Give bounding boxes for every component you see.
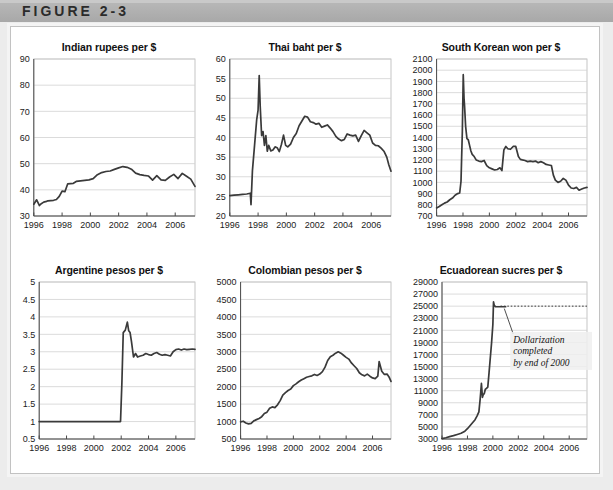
y-tick-label: 1500 xyxy=(413,121,433,131)
y-tick-label: 25 xyxy=(216,192,226,202)
plot-area xyxy=(39,282,195,439)
y-tick-label: 35 xyxy=(216,152,226,162)
y-tick-label: 2000 xyxy=(413,65,433,75)
y-tick-label: 55 xyxy=(216,74,226,84)
chart-cell-colombian-pesos: Colombian pesos per $5001000150020002500… xyxy=(207,250,403,473)
y-tick-label: 40 xyxy=(216,133,226,143)
x-tick-label: 2006 xyxy=(363,443,383,453)
chart-cell-ecuadorean-sucres: Ecuadorean sucres per $30005000700090001… xyxy=(403,250,599,473)
x-tick-label: 1996 xyxy=(427,220,447,230)
y-tick-label: 1200 xyxy=(413,155,433,165)
chart-svg-indian-rupees: 30405060708090199619982000200220042006 xyxy=(11,27,207,250)
y-tick-label: 2.5 xyxy=(23,364,36,374)
y-tick-label: 60 xyxy=(20,133,30,143)
x-tick-label: 2006 xyxy=(559,443,579,453)
y-tick-label: 800 xyxy=(418,200,433,210)
chart-svg-south-korean-won: 7008009001000110012001300140015001600170… xyxy=(403,27,599,250)
y-tick-label: 27000 xyxy=(413,289,438,299)
x-tick-label: 2004 xyxy=(137,220,157,230)
y-tick-label: 3.5 xyxy=(23,330,36,340)
annotation-line: by end of 2000 xyxy=(513,358,569,368)
y-tick-label: 40 xyxy=(20,185,30,195)
y-tick-label: 1500 xyxy=(217,399,237,409)
y-tick-label: 11000 xyxy=(414,386,438,396)
y-tick-label: 4.5 xyxy=(23,295,36,305)
chart-title-argentine-pesos: Argentine pesos per $ xyxy=(11,264,207,276)
x-tick-label: 2000 xyxy=(479,220,499,230)
x-tick-label: 1996 xyxy=(432,443,452,453)
figure-label: FIGURE 2-3 xyxy=(22,3,129,19)
x-tick-label: 1998 xyxy=(248,220,268,230)
y-tick-label: 50 xyxy=(216,93,226,103)
x-tick-label: 1996 xyxy=(231,443,251,453)
y-tick-label: 1600 xyxy=(413,110,433,120)
y-tick-label: 1000 xyxy=(413,178,433,188)
x-tick-label: 1998 xyxy=(57,443,77,453)
x-tick-label: 1996 xyxy=(29,443,49,453)
x-tick-label: 2004 xyxy=(139,443,159,453)
y-tick-label: 9000 xyxy=(418,398,438,408)
x-tick-label: 1998 xyxy=(457,443,477,453)
y-tick-label: 2000 xyxy=(217,382,237,392)
x-tick-label: 2004 xyxy=(534,443,554,453)
y-tick-label: 45 xyxy=(216,113,226,123)
x-tick-label: 2004 xyxy=(532,220,552,230)
y-tick-label: 80 xyxy=(20,80,30,90)
y-tick-label: 13000 xyxy=(413,374,438,384)
x-tick-label: 2006 xyxy=(166,443,186,453)
chart-title-south-korean-won: South Korean won per $ xyxy=(403,41,599,53)
chart-cell-indian-rupees: Indian rupees per $304050607080901996199… xyxy=(11,27,207,250)
x-tick-label: 2006 xyxy=(361,220,381,230)
annotation-line: Dollarization xyxy=(512,335,564,345)
x-tick-label: 2000 xyxy=(80,220,100,230)
annotation-line: completed xyxy=(513,346,552,356)
chart-title-colombian-pesos: Colombian pesos per $ xyxy=(207,264,403,276)
chart-cell-argentine-pesos: Argentine pesos per $0.511.522.533.544.5… xyxy=(11,250,207,473)
figure-panel: Indian rupees per $304050607080901996199… xyxy=(10,26,600,474)
chart-cell-south-korean-won: South Korean won per $700800900100011001… xyxy=(403,27,599,250)
y-tick-label: 2 xyxy=(30,382,35,392)
chart-svg-thai-baht: 2025303540455055601996199820002002200420… xyxy=(207,27,403,250)
y-tick-label: 5000 xyxy=(217,277,237,287)
y-tick-label: 1.5 xyxy=(23,399,36,409)
y-tick-label: 21000 xyxy=(413,326,438,336)
y-tick-label: 1400 xyxy=(413,133,433,143)
x-tick-label: 2002 xyxy=(305,220,325,230)
x-tick-label: 2006 xyxy=(165,220,185,230)
chart-title-indian-rupees: Indian rupees per $ xyxy=(11,41,207,53)
y-tick-label: 4 xyxy=(30,312,35,322)
y-tick-label: 2500 xyxy=(217,364,237,374)
x-tick-label: 2000 xyxy=(84,443,104,453)
y-tick-label: 1800 xyxy=(413,88,433,98)
chart-svg-ecuadorean-sucres: 3000500070009000110001300015000170001900… xyxy=(403,250,599,473)
y-tick-label: 1000 xyxy=(217,417,237,427)
y-tick-label: 30 xyxy=(216,172,226,182)
y-tick-label: 5 xyxy=(30,277,35,287)
x-tick-label: 2002 xyxy=(109,220,129,230)
y-tick-label: 17000 xyxy=(413,350,438,360)
y-tick-label: 29000 xyxy=(413,277,438,287)
x-tick-label: 1998 xyxy=(257,443,277,453)
y-tick-label: 3500 xyxy=(217,330,237,340)
y-tick-label: 90 xyxy=(20,54,30,64)
y-tick-label: 2100 xyxy=(413,54,433,64)
x-tick-label: 2000 xyxy=(276,220,296,230)
x-tick-label: 2004 xyxy=(336,443,356,453)
x-tick-label: 2000 xyxy=(283,443,303,453)
y-tick-label: 50 xyxy=(20,159,30,169)
y-tick-label: 23000 xyxy=(413,313,438,323)
y-tick-label: 25000 xyxy=(413,301,438,311)
chart-cell-thai-baht: Thai baht per $2025303540455055601996199… xyxy=(207,27,403,250)
y-tick-label: 5000 xyxy=(418,422,438,432)
y-tick-label: 70 xyxy=(20,107,30,117)
y-tick-label: 900 xyxy=(418,189,433,199)
y-tick-label: 4500 xyxy=(217,295,237,305)
y-tick-label: 3000 xyxy=(217,347,237,357)
y-tick-label: 3 xyxy=(30,347,35,357)
x-tick-label: 2002 xyxy=(310,443,330,453)
y-tick-label: 60 xyxy=(216,54,226,64)
x-tick-label: 1996 xyxy=(24,220,44,230)
y-tick-label: 1300 xyxy=(413,144,433,154)
y-tick-label: 4000 xyxy=(217,312,237,322)
chart-svg-colombian-pesos: 5001000150020002500300035004000450050001… xyxy=(207,250,403,473)
